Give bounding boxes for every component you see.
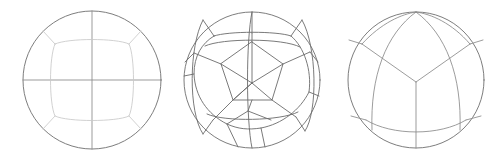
panel-2-arc-upper <box>205 40 300 47</box>
panel-2-bottom-cell-spoke <box>248 100 252 111</box>
panel-1-spoke-bottom-right <box>129 116 141 129</box>
tessellation-figure <box>0 0 491 160</box>
panel-3-spoke-northeast <box>416 44 470 82</box>
panel-tetrahedral-projection <box>348 12 484 148</box>
panel-2-outer-connector-nne <box>291 20 302 36</box>
panel-pentagonal-tessellation <box>184 12 320 148</box>
panel-2-outer-connector-s1 <box>261 128 265 147</box>
panel-2-spoke-se <box>252 83 272 100</box>
panel-2-bottom-cell-edge-a <box>233 83 252 100</box>
panel-3-meridian-left <box>372 12 416 130</box>
panel-2-connector-nw <box>194 53 221 64</box>
panel-3-arc-top-right <box>416 12 470 44</box>
panel-1-spoke-bottom-left <box>43 116 55 129</box>
figure-container <box>0 0 491 160</box>
panel-2-connector-ne <box>283 52 310 64</box>
panel-3-spoke-northwest <box>362 44 416 82</box>
panel-cube-projection <box>23 11 161 149</box>
panel-3-meridian-right <box>416 12 460 130</box>
panel-3-arc-top-left <box>362 12 416 44</box>
panel-2-outer-connector-ene <box>310 52 318 62</box>
panel-2-outer-connector-nnw <box>203 20 214 36</box>
panel-1-spoke-top-right <box>129 31 141 44</box>
panel-1-spoke-top-left <box>43 31 55 44</box>
